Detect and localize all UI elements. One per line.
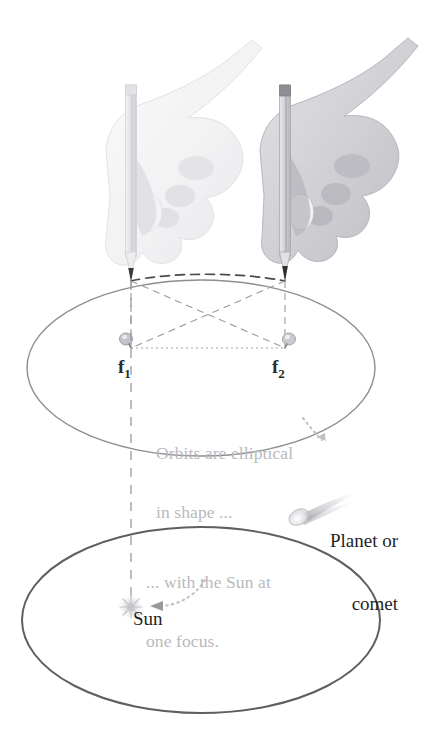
pencil-right-ferrule <box>280 85 291 96</box>
focus-2-subscript: 2 <box>278 366 285 381</box>
hand-left-knuckle-2 <box>165 185 195 207</box>
annotation-orbits-line-1: Orbits are elliptical <box>156 444 293 464</box>
hand-right-knuckle-1 <box>334 154 370 178</box>
annotation-focus: ... with the Sun at one focus. <box>146 534 271 691</box>
pencil-left-group <box>126 85 137 282</box>
focus-1-label: f1 <box>118 356 131 381</box>
hand-left-knuckle-1 <box>178 156 214 180</box>
callout-planet-or-comet: Planet or comet <box>330 487 398 657</box>
pencil-right-body <box>280 85 291 257</box>
pencil-right-tip <box>282 266 288 282</box>
callout-planet-line-1: Planet or <box>330 530 398 551</box>
annotation-focus-line-1: ... with the Sun at <box>146 573 271 593</box>
arrow-orbits-icon <box>303 418 329 444</box>
focus-2-label: f2 <box>272 356 285 381</box>
annotation-orbits-line-2: in shape ... <box>156 503 293 523</box>
hand-right-knuckle-2 <box>321 183 351 205</box>
pencil-left-ferrule <box>126 85 137 95</box>
pencil-left-body <box>126 85 137 257</box>
annotation-focus-line-2: one focus. <box>146 632 271 652</box>
pencil-right-group <box>280 85 291 282</box>
sun-label: Sun <box>133 608 163 629</box>
callout-planet-line-2: comet <box>330 593 398 614</box>
orbit-diagram: f1 f2 Orbits are elliptical in shape ...… <box>0 0 445 733</box>
focus-1-subscript: 1 <box>124 366 131 381</box>
